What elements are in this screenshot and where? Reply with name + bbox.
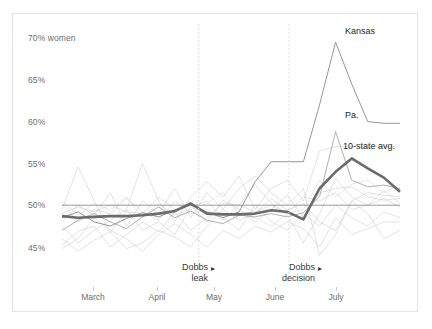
annotation-dobbs-leak-line1: Dobbs: [182, 262, 208, 272]
series-line-state-4: [62, 193, 400, 252]
annotation-dobbs-leak-line2: leak: [191, 273, 208, 283]
y-tick-label-55: 55%: [28, 159, 45, 169]
annotation-dobbs-leak-arrow-icon: ▸: [211, 264, 215, 273]
series-line-state-7: [62, 178, 400, 242]
series-label-ten-state-avg: 10-state avg.: [343, 141, 395, 151]
y-tick-label-60: 60%: [28, 117, 45, 127]
x-tick-label-may: May: [206, 292, 222, 302]
chart-container: 70% women 65% 60% 55% 50% 45% March Apri…: [0, 0, 432, 329]
y-tick-label-50: 50%: [28, 200, 45, 210]
ten-state-average-line: [62, 158, 400, 219]
annotation-dobbs-decision-line1: Dobbs: [289, 262, 315, 272]
event-marker-lines: [199, 24, 289, 282]
x-tick-march: [93, 287, 94, 291]
series-label-pennsylvania: Pa.: [345, 110, 359, 120]
chart-svg: [0, 0, 432, 329]
annotation-dobbs-decision: Dobbs decision: [248, 262, 315, 284]
x-tick-label-march: March: [81, 292, 105, 302]
annotation-dobbs-decision-arrow-icon: ▸: [318, 264, 322, 273]
series-line-10-state-avg: [62, 158, 400, 219]
annotation-dobbs-leak: Dobbs leak: [128, 262, 208, 284]
highlighted-state-lines: [62, 42, 400, 230]
x-tick-may: [214, 287, 215, 291]
x-tick-label-july: July: [328, 292, 343, 302]
y-tick-label-65: 65%: [28, 75, 45, 85]
x-tick-july: [336, 287, 337, 291]
series-label-kansas: Kansas: [345, 26, 375, 36]
y-tick-label-70: 70% women: [28, 33, 76, 43]
x-tick-april: [157, 287, 158, 291]
y-tick-label-45: 45%: [28, 243, 45, 253]
faint-state-lines: [62, 147, 400, 256]
annotation-dobbs-decision-line2: decision: [282, 273, 315, 283]
x-tick-label-june: June: [266, 292, 284, 302]
x-tick-june: [275, 287, 276, 291]
x-tick-label-april: April: [148, 292, 165, 302]
